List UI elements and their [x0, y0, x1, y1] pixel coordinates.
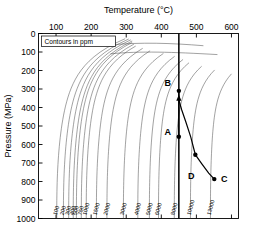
xtick-label-400: 400	[154, 22, 168, 32]
solubility-contour-figure: 1002003004005007501000150020003000400050…	[0, 0, 257, 235]
point-label-A: A	[165, 127, 172, 137]
data-point-C	[212, 177, 216, 181]
chart-canvas: 1002003004005007501000150020003000400050…	[0, 0, 257, 235]
xtick-label-300: 300	[119, 22, 133, 32]
xtick-label-200: 200	[84, 22, 98, 32]
legend-text: Contours in ppm	[45, 38, 94, 46]
ytick-label-1000: 1000	[17, 214, 36, 224]
plot-frame	[39, 34, 239, 219]
ytick-label-400: 400	[21, 103, 35, 113]
xtick-label-600: 600	[224, 22, 238, 32]
data-point-A	[177, 135, 181, 139]
ytick-label-500: 500	[21, 121, 35, 131]
point-label-D: D	[188, 171, 195, 181]
ytick-label-800: 800	[21, 177, 35, 187]
ytick-label-900: 900	[21, 195, 35, 205]
ytick-label-300: 300	[21, 84, 35, 94]
point-label-B: B	[165, 78, 172, 88]
x-axis-title: Temperature (°C)	[104, 5, 173, 15]
ytick-label-0: 0	[31, 29, 36, 39]
ytick-label-600: 600	[21, 140, 35, 150]
y-axis-title: Pressure (MPa)	[3, 94, 13, 157]
ytick-label-700: 700	[21, 158, 35, 168]
point-label-C: C	[221, 174, 228, 184]
xtick-label-500: 500	[189, 22, 203, 32]
ytick-label-100: 100	[21, 47, 35, 57]
data-point-B	[177, 89, 181, 93]
data-point-D	[193, 152, 197, 156]
ytick-label-200: 200	[21, 66, 35, 76]
xtick-label-100: 100	[49, 22, 63, 32]
